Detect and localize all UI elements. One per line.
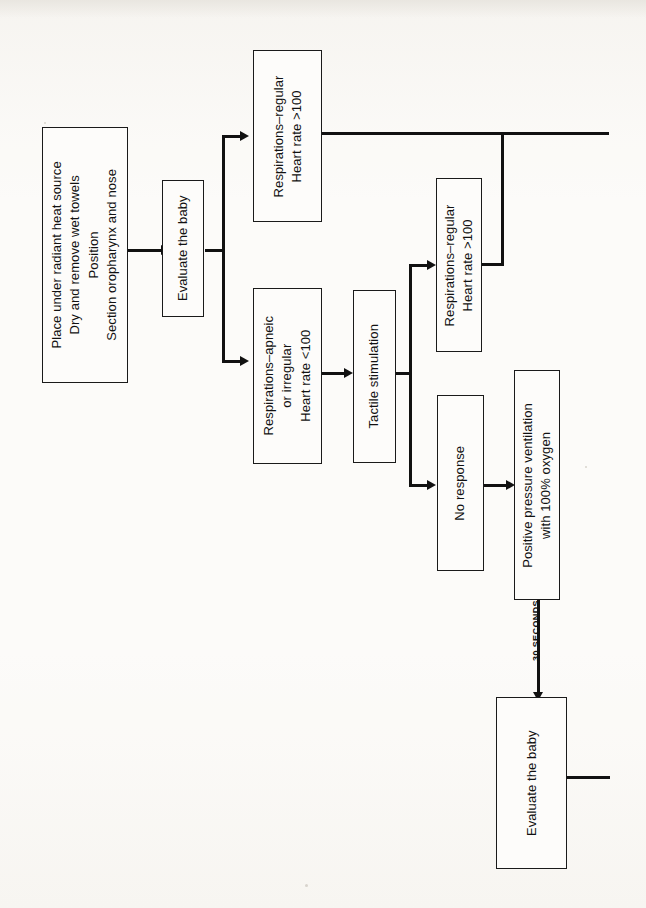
- connector-initial-to-evaluate1: [128, 249, 164, 252]
- node-positive-pressure-ventilation-label: Positive pressure ventilation with 100% …: [519, 403, 556, 568]
- node-positive-pressure-ventilation[interactable]: Positive pressure ventilation with 100% …: [514, 370, 560, 600]
- arrowhead-to-no-response: [427, 480, 436, 490]
- node-respirations-regular-1-label: Respirations–regular Heart rate >100: [269, 75, 306, 197]
- node-tactile-stimulation-label: Tactile stimulation: [365, 324, 383, 429]
- scan-speck: [585, 466, 587, 468]
- connector-resp-regular2-to-exit: [482, 263, 504, 266]
- node-respirations-apneic-label: Respirations–apneic or irregular Heart r…: [260, 316, 315, 436]
- scan-speck: [44, 122, 46, 124]
- node-evaluate-baby-2-label: Evaluate the baby: [522, 730, 540, 836]
- arrowhead-to-resp-regular1: [240, 131, 249, 141]
- node-initial-steps[interactable]: Place under radiant heat source Dry and …: [42, 127, 128, 383]
- connector-resp-regular1-exit: [322, 132, 609, 135]
- node-tactile-stimulation[interactable]: Tactile stimulation: [353, 290, 396, 463]
- arrowhead-to-tactile: [344, 368, 353, 378]
- connector-evaluate2-exit: [567, 776, 610, 779]
- node-respirations-apneic[interactable]: Respirations–apneic or irregular Heart r…: [253, 288, 322, 464]
- arrowhead-to-resp-regular2: [427, 260, 436, 270]
- node-no-response-label: No response: [451, 446, 469, 521]
- node-initial-steps-label: Place under radiant heat source Dry and …: [48, 161, 122, 348]
- scan-speck: [305, 884, 308, 887]
- node-respirations-regular-1[interactable]: Respirations–regular Heart rate >100: [253, 50, 322, 222]
- node-evaluate-baby-2[interactable]: Evaluate the baby: [496, 697, 567, 869]
- node-respirations-regular-2-label: Respirations–regular Heart rate >100: [441, 204, 478, 326]
- node-respirations-regular-2[interactable]: Respirations–regular Heart rate >100: [436, 178, 482, 352]
- flowchart-page: 30 SECONDS Place under radiant heat sour…: [0, 0, 646, 908]
- connector-evaluate1-split-bar: [222, 137, 225, 363]
- node-evaluate-baby-1[interactable]: Evaluate the baby: [162, 180, 204, 317]
- arrowhead-to-resp-apneic: [240, 356, 249, 366]
- connector-exit-line-drop: [501, 132, 504, 266]
- edge-label-30-seconds: 30 SECONDS: [531, 600, 541, 661]
- node-evaluate-baby-1-label: Evaluate the baby: [174, 196, 192, 302]
- node-no-response[interactable]: No response: [437, 395, 484, 571]
- connector-tactile-split-bar: [409, 265, 412, 487]
- paper-top-edge-shadow: [0, 0, 646, 18]
